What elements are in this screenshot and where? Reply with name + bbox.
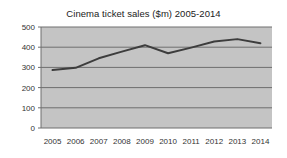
x-axis-tick-label: 2010 — [159, 137, 177, 146]
x-axis-tick-label: 2005 — [44, 137, 62, 146]
x-axis-tick-label: 2014 — [252, 137, 270, 146]
y-axis-tick-label: 500 — [22, 23, 36, 32]
chart-plot-area: 0100200300400500 20052006200720082009201… — [0, 0, 287, 158]
cinema-ticket-sales-chart: Cinema ticket sales ($m) 2005-2014 01002… — [0, 0, 287, 158]
y-axis-tick-label: 300 — [22, 63, 36, 72]
y-axis-tick-label: 0 — [31, 124, 36, 133]
x-axis-labels: 2005200620072008200920102011201220132014 — [44, 137, 270, 146]
plot-background — [41, 27, 272, 128]
x-axis-tick-label: 2012 — [205, 137, 223, 146]
x-axis-tick-label: 2013 — [228, 137, 246, 146]
x-axis-tick-label: 2008 — [113, 137, 131, 146]
x-axis-tick-label: 2009 — [136, 137, 154, 146]
y-axis-tick-label: 400 — [22, 43, 36, 52]
y-axis-tick-label: 200 — [22, 84, 36, 93]
y-axis-labels: 0100200300400500 — [22, 23, 36, 133]
x-axis-tick-label: 2006 — [67, 137, 85, 146]
x-axis-tick-label: 2007 — [90, 137, 108, 146]
y-axis-tick-label: 100 — [22, 104, 36, 113]
x-axis-tick-label: 2011 — [183, 137, 201, 146]
